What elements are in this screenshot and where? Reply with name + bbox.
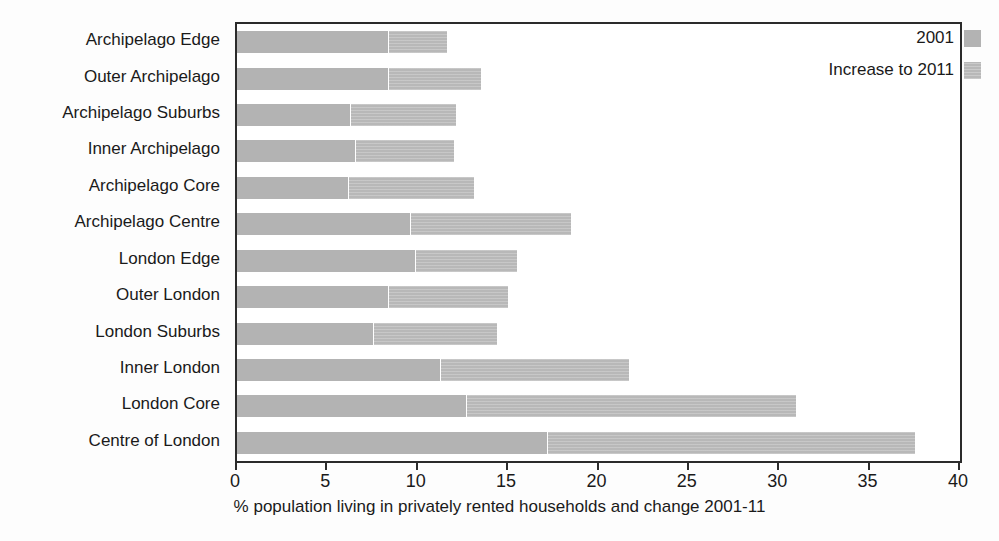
legend-label: Increase to 2011 (829, 60, 954, 80)
x-tick-mark (687, 461, 689, 470)
bar-segment-increase-to-2011 (356, 140, 454, 162)
chart-legend: 2001Increase to 2011 (829, 28, 981, 80)
y-axis-label: Archipelago Centre (74, 213, 220, 230)
bar-segment-2001 (237, 395, 467, 417)
y-axis-label: Archipelago Suburbs (62, 104, 220, 121)
bar (237, 359, 629, 381)
bar-row (237, 170, 960, 206)
bar-row (237, 388, 960, 424)
x-tick-label: 0 (230, 472, 240, 490)
bar (237, 286, 508, 308)
bar-row (237, 425, 960, 461)
bar-segment-2001 (237, 359, 441, 381)
legend-swatch (964, 30, 981, 47)
x-tick-mark (777, 461, 779, 470)
legend-swatch (964, 62, 981, 79)
x-tick-mark (325, 461, 327, 470)
bar-segment-increase-to-2011 (467, 395, 796, 417)
legend-entry: 2001 (916, 28, 981, 48)
x-tick-label: 25 (677, 472, 697, 490)
bar-segment-increase-to-2011 (389, 31, 447, 53)
bar (237, 432, 915, 454)
bar (237, 323, 497, 345)
bar (237, 213, 571, 235)
x-tick-mark (868, 461, 870, 470)
y-axis-label: Inner London (120, 359, 220, 376)
bar-segment-2001 (237, 250, 416, 272)
bar-segment-2001 (237, 177, 349, 199)
y-axis-label: Centre of London (89, 432, 220, 449)
bar (237, 68, 481, 90)
x-axis-ticks: 0510152025303540 (235, 461, 958, 501)
bar-segment-2001 (237, 104, 351, 126)
bar (237, 250, 517, 272)
x-tick-mark (506, 461, 508, 470)
bar (237, 177, 474, 199)
x-tick-mark (597, 461, 599, 470)
bar-segment-increase-to-2011 (374, 323, 497, 345)
bar-segment-increase-to-2011 (411, 213, 572, 235)
y-axis-label: London Suburbs (95, 323, 220, 340)
y-axis-label: London Edge (119, 250, 220, 267)
bar-row (237, 352, 960, 388)
bar-row (237, 315, 960, 351)
bar (237, 395, 796, 417)
x-tick-mark (958, 461, 960, 470)
bar (237, 31, 447, 53)
y-axis-label: Inner Archipelago (88, 140, 220, 157)
x-tick-label: 40 (948, 472, 968, 490)
bar-segment-increase-to-2011 (389, 68, 481, 90)
bar-segment-2001 (237, 68, 389, 90)
bar-row (237, 243, 960, 279)
plot-area (235, 22, 962, 463)
x-tick-mark (235, 461, 237, 470)
bar-segment-increase-to-2011 (548, 432, 915, 454)
bar-segment-increase-to-2011 (389, 286, 508, 308)
legend-entry: Increase to 2011 (829, 60, 981, 80)
legend-label: 2001 (916, 28, 954, 48)
bar-row (237, 133, 960, 169)
x-tick-label: 10 (406, 472, 426, 490)
bar (237, 104, 456, 126)
x-tick-label: 5 (320, 472, 330, 490)
y-axis-label: Archipelago Edge (86, 31, 220, 48)
bar-segment-2001 (237, 31, 389, 53)
x-axis-title: % population living in privately rented … (0, 497, 999, 517)
bar-segment-increase-to-2011 (349, 177, 474, 199)
chart-figure: Archipelago EdgeOuter ArchipelagoArchipe… (0, 0, 999, 541)
bar-row (237, 279, 960, 315)
bar-segment-increase-to-2011 (441, 359, 629, 381)
x-tick-label: 15 (496, 472, 516, 490)
y-axis-label: Archipelago Core (89, 177, 220, 194)
bar-row (237, 97, 960, 133)
bar-row (237, 206, 960, 242)
y-axis-label: Outer London (116, 286, 220, 303)
x-tick-label: 30 (767, 472, 787, 490)
bar-segment-increase-to-2011 (416, 250, 517, 272)
bar-segment-2001 (237, 140, 356, 162)
x-tick-mark (416, 461, 418, 470)
bar-segment-2001 (237, 323, 374, 345)
y-axis-labels: Archipelago EdgeOuter ArchipelagoArchipe… (0, 22, 228, 459)
bar-segment-2001 (237, 213, 411, 235)
bar-segment-increase-to-2011 (351, 104, 456, 126)
bar-segment-2001 (237, 286, 389, 308)
bar-segment-2001 (237, 432, 548, 454)
y-axis-label: Outer Archipelago (84, 68, 220, 85)
x-tick-label: 20 (586, 472, 606, 490)
bar (237, 140, 454, 162)
y-axis-label: London Core (122, 395, 220, 412)
x-tick-label: 35 (858, 472, 878, 490)
